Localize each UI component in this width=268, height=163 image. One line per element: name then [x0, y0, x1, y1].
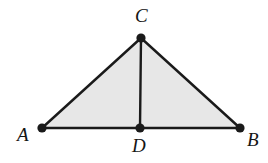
geometry-figure: A B C D [0, 0, 268, 163]
vertex-dot-a [37, 123, 46, 132]
segment-cd-altitude [140, 38, 141, 128]
vertex-label-a: A [17, 125, 29, 144]
vertex-label-c: C [135, 6, 148, 25]
vertex-dot-b [235, 123, 244, 132]
vertex-label-b: B [247, 130, 259, 149]
vertex-dot-d [135, 123, 144, 132]
vertex-label-d: D [132, 136, 146, 155]
vertex-dot-c [136, 33, 145, 42]
